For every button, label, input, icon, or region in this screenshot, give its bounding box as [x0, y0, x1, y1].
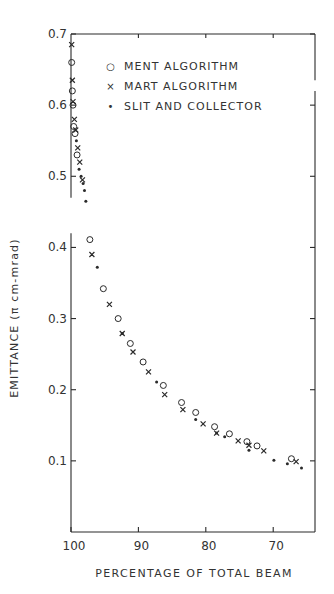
ment-point: [288, 456, 294, 462]
ment-point: [160, 382, 166, 388]
ment-point: [127, 340, 133, 346]
x-tick-label: 80: [201, 539, 216, 553]
mart-point: [261, 448, 266, 453]
ment-point: [193, 409, 199, 415]
slit-point: [75, 139, 78, 142]
ment-point: [74, 152, 80, 158]
mart-point: [131, 350, 136, 355]
slit-point: [78, 168, 81, 171]
legend-item-mart: × MART ALGORITHM: [104, 76, 263, 96]
ment-point: [115, 316, 121, 322]
mart-point: [201, 421, 206, 426]
slit-point: [96, 266, 99, 269]
slit-point: [272, 459, 275, 462]
legend-label: MENT ALGORITHM: [124, 60, 239, 73]
mart-point: [162, 392, 167, 397]
mart-point: [236, 438, 241, 443]
x-marker-icon: ×: [104, 81, 118, 92]
ment-point: [69, 88, 75, 94]
slit-point: [215, 432, 218, 435]
slit-point: [194, 418, 197, 421]
slit-point: [223, 435, 226, 438]
y-tick-label: 0.6: [48, 98, 67, 112]
slit-point: [83, 189, 86, 192]
x-tick-label: 100: [63, 539, 86, 553]
slit-point: [247, 449, 250, 452]
ment-point: [69, 59, 75, 65]
mart-point: [75, 145, 80, 150]
ment-point: [100, 286, 106, 292]
dot-marker-icon: •: [104, 101, 118, 112]
legend-item-slit: • SLIT AND COLLECTOR: [104, 96, 263, 116]
mart-point: [72, 117, 77, 122]
legend-label: SLIT AND COLLECTOR: [124, 100, 263, 113]
slit-point: [300, 466, 303, 469]
legend: ○ MENT ALGORITHM × MART ALGORITHM • SLIT…: [104, 56, 263, 116]
ment-point: [87, 237, 93, 243]
slit-point: [121, 332, 124, 335]
ment-point: [179, 400, 185, 406]
y-tick-label: 0.1: [48, 454, 67, 468]
x-tick-label: 70: [269, 539, 284, 553]
mart-point: [146, 369, 151, 374]
ment-point: [226, 431, 232, 437]
mart-point: [89, 252, 94, 257]
legend-item-ment: ○ MENT ALGORITHM: [104, 56, 263, 76]
legend-label: MART ALGORITHM: [124, 80, 238, 93]
y-tick-label: 0.5: [48, 169, 67, 183]
mart-point: [180, 407, 185, 412]
slit-point: [84, 200, 87, 203]
y-tick-label: 0.7: [48, 27, 67, 41]
mart-point: [294, 459, 299, 464]
x-axis-label: PERCENTAGE OF TOTAL BEAM: [95, 567, 293, 580]
ment-point: [212, 424, 218, 430]
open-circle-marker-icon: ○: [104, 61, 118, 72]
y-tick-label: 0.3: [48, 312, 67, 326]
slit-point: [286, 462, 289, 465]
mart-point: [77, 160, 82, 165]
ment-point: [254, 443, 260, 449]
ment-point: [140, 359, 146, 365]
slit-point: [82, 182, 85, 185]
mart-point: [107, 302, 112, 307]
y-tick-label: 0.2: [48, 383, 67, 397]
y-axis-label: EMITTANCE (π cm-mrad): [8, 238, 21, 398]
y-tick-label: 0.4: [48, 240, 67, 254]
x-tick-label: 90: [134, 539, 149, 553]
slit-point: [80, 175, 83, 178]
slit-point: [155, 380, 158, 383]
mart-point: [80, 177, 85, 182]
mart-point: [69, 42, 74, 47]
